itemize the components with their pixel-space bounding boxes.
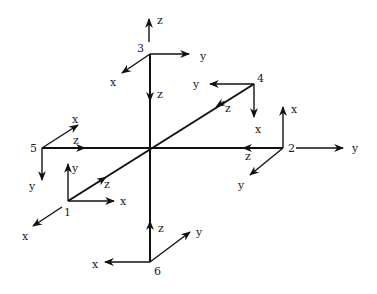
frame-number-label: 2 [288, 142, 295, 155]
frame-number-label: 5 [30, 142, 37, 155]
x-axis-arrow [122, 54, 150, 73]
axis-label-z: z [104, 178, 110, 191]
axis-label-z: z [245, 150, 251, 163]
coordinate-frames-diagram: 1xyxz2yxyz3zyxz4yxz5xyz6xyz [0, 0, 377, 294]
axis-label-y: y [195, 226, 203, 239]
axis-label-x: x [291, 103, 298, 116]
frame-4: 4yxz [192, 72, 264, 136]
axis-label-y: y [192, 78, 200, 91]
axis-label-z: z [225, 102, 231, 115]
axis-label-y: y [28, 180, 36, 193]
axis-label-y: y [199, 50, 207, 63]
axis-label-x: x [92, 258, 99, 271]
frame-number-label: 1 [64, 206, 71, 219]
y-axis-arrow [250, 148, 283, 175]
axis-label-x: x [22, 230, 29, 243]
axis-label-z: z [157, 14, 163, 27]
frame-number-label: 3 [137, 42, 144, 55]
axis-label-x: x [110, 76, 117, 89]
frames: 1xyxz2yxyz3zyxz4yxz5xyz6xyz [22, 14, 359, 278]
axis-label-x: x [120, 195, 127, 208]
x-axis-arrow [33, 207, 62, 226]
frame-number-label: 6 [154, 265, 161, 278]
axis-label-x: x [72, 113, 79, 126]
frame-6: 6xyz [92, 222, 203, 278]
axis-label-z: z [158, 222, 164, 235]
axis-label-y: y [71, 162, 79, 175]
frame-number-label: 4 [257, 72, 264, 85]
axis-label-z: z [157, 88, 163, 101]
axis-label-x: x [255, 123, 262, 136]
y-axis-arrow [150, 232, 190, 262]
axis-label-y: y [237, 179, 245, 192]
axis-label-z: z [73, 134, 79, 147]
axis-label-y: y [351, 142, 359, 155]
frame-5: 5xyz [28, 113, 81, 193]
